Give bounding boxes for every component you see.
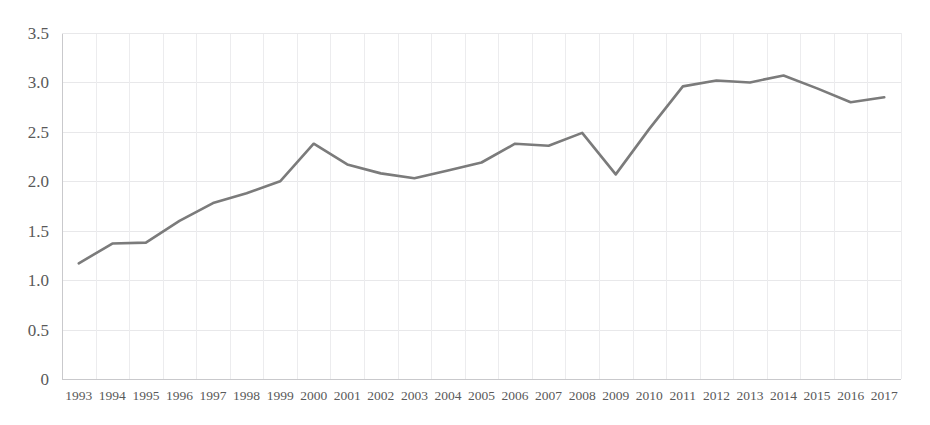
- x-tick-label: 2003: [401, 388, 428, 403]
- y-tick-label: 2.5: [28, 123, 49, 142]
- y-tick-label: 1.5: [28, 222, 49, 241]
- x-tick-label: 1993: [65, 388, 92, 403]
- y-tick-label: 0.5: [28, 321, 49, 340]
- x-tick-label: 1997: [200, 388, 227, 403]
- x-tick-label: 2017: [871, 388, 898, 403]
- y-axis-tick-labels: 00.51.01.52.02.53.03.5: [28, 24, 49, 389]
- x-tick-label: 2007: [535, 388, 562, 403]
- x-tick-label: 1999: [267, 388, 294, 403]
- line-chart-figure: 00.51.01.52.02.53.03.5 19931994199519961…: [0, 0, 930, 425]
- x-tick-label: 2009: [602, 388, 629, 403]
- y-tick-label: 2.0: [28, 172, 49, 191]
- x-tick-label: 2001: [334, 388, 361, 403]
- x-tick-label: 2016: [837, 388, 864, 403]
- y-tick-label: 3.0: [28, 73, 49, 92]
- x-tick-label: 2010: [636, 388, 663, 403]
- plot-background: [62, 33, 901, 379]
- x-tick-label: 2014: [770, 388, 797, 403]
- y-tick-label: 3.5: [28, 24, 49, 43]
- x-tick-label: 1996: [166, 388, 193, 403]
- x-tick-label: 2002: [367, 388, 394, 403]
- x-tick-label: 1998: [233, 388, 260, 403]
- x-tick-label: 2000: [300, 388, 327, 403]
- x-tick-label: 2004: [434, 388, 461, 403]
- x-tick-label: 2005: [468, 388, 495, 403]
- y-tick-label: 0: [41, 370, 50, 389]
- x-tick-label: 2011: [670, 388, 697, 403]
- y-tick-label: 1.0: [28, 271, 49, 290]
- x-tick-label: 2006: [502, 388, 529, 403]
- x-tick-label: 1995: [132, 388, 159, 403]
- x-axis-tick-labels: 1993199419951996199719981999200020012002…: [65, 388, 898, 403]
- x-tick-label: 1994: [99, 388, 126, 403]
- x-tick-label: 2008: [569, 388, 596, 403]
- x-tick-label: 2012: [703, 388, 730, 403]
- x-tick-label: 2015: [804, 388, 831, 403]
- chart-canvas: 00.51.01.52.02.53.03.5 19931994199519961…: [0, 0, 930, 425]
- x-tick-label: 2013: [736, 388, 763, 403]
